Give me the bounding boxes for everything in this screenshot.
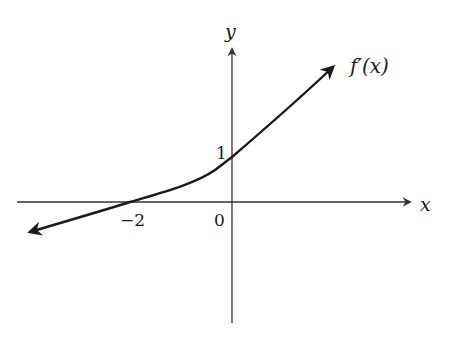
y-intercept-label: 1	[216, 145, 227, 162]
x-axis-label: x	[420, 195, 431, 214]
curve-f-prime	[30, 67, 333, 232]
graph-canvas	[0, 0, 453, 347]
x-intercept-label: −2	[120, 212, 145, 229]
y-axis-label: y	[225, 22, 236, 41]
origin-label: 0	[214, 212, 225, 229]
curve-label: f′(x)	[350, 56, 389, 76]
